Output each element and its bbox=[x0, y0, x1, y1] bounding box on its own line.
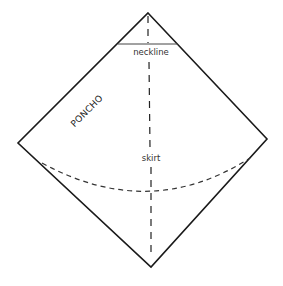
poncho-diagram: neckline skirt PONCHO bbox=[0, 0, 283, 286]
center-fold-line-middle bbox=[149, 62, 150, 148]
poncho-title: PONCHO bbox=[69, 93, 105, 129]
skirt-label: skirt bbox=[142, 153, 161, 163]
neckline-label: neckline bbox=[133, 47, 169, 57]
